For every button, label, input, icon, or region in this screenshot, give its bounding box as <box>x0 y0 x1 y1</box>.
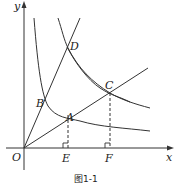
x-axis-arrow-icon <box>167 146 174 151</box>
y-axis-arrow-icon <box>22 1 27 8</box>
right-angle-e-icon <box>63 143 68 148</box>
hyperbola-inner <box>34 18 150 131</box>
x-axis-label: x <box>166 151 173 164</box>
point-label-f: F <box>104 152 113 165</box>
hyperbola-outer-2 <box>67 47 130 102</box>
figure-caption: 图1-1 <box>74 174 98 184</box>
right-angle-f-icon <box>105 143 110 148</box>
point-label-a: A <box>65 111 74 124</box>
y-axis-label: y <box>13 0 21 13</box>
point-label-c: C <box>105 79 114 92</box>
coordinate-diagram: y x O D C B A E F 图1-1 <box>0 0 177 184</box>
hyperbola-outer-1 <box>58 18 150 108</box>
origin-label: O <box>12 151 21 164</box>
point-label-b: B <box>35 97 44 110</box>
point-label-e: E <box>61 152 70 165</box>
point-label-d: D <box>69 40 79 53</box>
line-od <box>24 18 80 148</box>
